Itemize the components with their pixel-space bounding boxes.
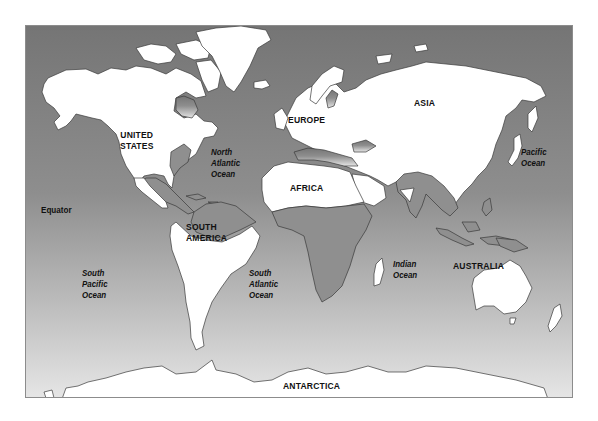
- label-asia: ASIA: [414, 97, 435, 108]
- world-map: UNITED STATES EUROPE ASIA AFRICA SOUTH A…: [25, 25, 573, 398]
- label-pacific-ocean: Pacific Ocean: [521, 147, 547, 169]
- label-australia: AUSTRALIA: [453, 260, 504, 271]
- label-south-atlantic-ocean: South Atlantic Ocean: [249, 268, 278, 301]
- label-europe: EUROPE: [288, 114, 325, 125]
- label-south-america: SOUTH AMERICA: [186, 221, 227, 243]
- page: UNITED STATES EUROPE ASIA AFRICA SOUTH A…: [0, 0, 598, 421]
- world-map-graphic: [26, 26, 573, 398]
- label-equator: Equator: [41, 205, 72, 216]
- label-africa: AFRICA: [290, 182, 323, 193]
- label-united-states: UNITED STATES: [120, 129, 154, 151]
- label-indian-ocean: Indian Ocean: [393, 259, 417, 281]
- label-south-pacific-ocean: South Pacific Ocean: [82, 268, 108, 301]
- label-north-atlantic-ocean: North Atlantic Ocean: [211, 147, 240, 180]
- label-antarctica: ANTARCTICA: [283, 380, 340, 391]
